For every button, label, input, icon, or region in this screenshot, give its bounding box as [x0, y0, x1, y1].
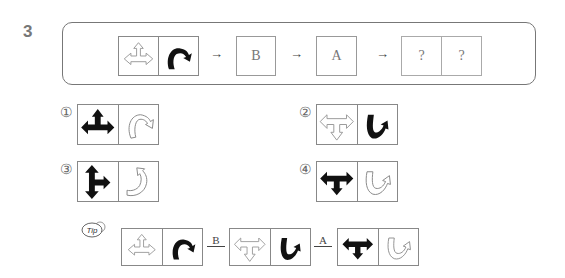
option-1[interactable]: [77, 104, 159, 145]
step-a-label: A: [331, 48, 341, 63]
option-4[interactable]: [316, 161, 398, 202]
black-curved-arrow-up-icon: [271, 229, 311, 265]
step-a-box: A: [316, 36, 357, 76]
black-curved-arrow-up-icon: [358, 105, 398, 144]
sequence-arrow: →: [376, 46, 389, 62]
result-pair: ? ?: [401, 36, 482, 76]
option-2-marker[interactable]: ②: [299, 104, 312, 121]
black-three-way-arrow-icon: [78, 105, 119, 144]
outline-curved-arrow-up-right-icon: [379, 229, 419, 265]
start-pair: [118, 36, 199, 76]
tip-badge: Tip: [81, 221, 107, 239]
outline-curved-arrow-icon: [119, 105, 159, 144]
sequence-arrow: →: [290, 46, 303, 62]
sequence-arrow: →: [210, 46, 223, 62]
outline-three-way-arrow-down-icon: [230, 229, 271, 265]
option-2[interactable]: [316, 104, 398, 145]
outline-curved-arrow-up-right-icon: [358, 162, 398, 201]
outline-three-way-arrow-icon: [119, 37, 159, 75]
tip-arrow-a: A: [314, 234, 332, 247]
outline-curved-arrow-up-icon: [119, 162, 159, 201]
unknown-right: ?: [442, 37, 481, 75]
outline-three-way-arrow-down-icon: [317, 105, 358, 144]
black-curved-arrow-icon: [159, 37, 198, 75]
question-number: 3: [23, 22, 32, 42]
black-three-way-arrow-down-icon: [317, 162, 358, 201]
option-3-marker[interactable]: ③: [60, 161, 73, 178]
tip-middle-pair: [229, 228, 311, 266]
step-b-box: B: [236, 36, 276, 76]
black-three-way-arrow-down-icon: [338, 229, 379, 265]
unknown-left: ?: [402, 37, 442, 75]
tip-result-pair: [337, 228, 419, 266]
step-b-label: B: [251, 48, 260, 63]
option-3[interactable]: [77, 161, 159, 202]
black-three-way-arrow-vertical-icon: [78, 162, 119, 201]
outline-three-way-arrow-icon: [122, 229, 163, 265]
black-curved-arrow-icon: [163, 229, 203, 265]
tip-start-pair: [121, 228, 203, 266]
option-4-marker[interactable]: ④: [299, 161, 312, 178]
svg-text:Tip: Tip: [86, 226, 98, 235]
tip-step-a-label: A: [314, 234, 332, 247]
tip-arrow-b: B: [207, 234, 225, 247]
option-1-marker[interactable]: ①: [60, 104, 73, 121]
tip-step-b-label: B: [207, 234, 225, 247]
